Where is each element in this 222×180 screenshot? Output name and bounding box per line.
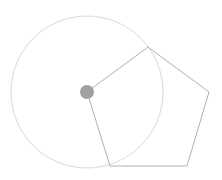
pentagon <box>87 47 209 166</box>
center-point <box>80 85 94 99</box>
geometry-diagram <box>0 0 222 180</box>
